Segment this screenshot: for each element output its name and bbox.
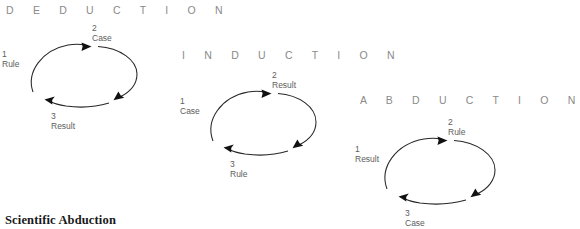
arc-segment-3 (230, 150, 288, 155)
node-text: Case (180, 107, 200, 117)
arrowhead-top (262, 89, 272, 98)
arc-segment-2 (454, 141, 495, 195)
diagram-deduction: D E D U C T I O N 1 Rule 2 Case 3 Result (0, 0, 175, 140)
cycle-arrow-diagram-abduction (355, 90, 523, 229)
cycle-arrow-diagram-deduction (0, 0, 175, 140)
arc-segment-1 (211, 91, 265, 141)
node-text: Rule (448, 128, 465, 138)
node-label-induction-3: 3 Rule (230, 160, 247, 179)
arc-segment-1 (385, 138, 441, 189)
arrowhead-top (438, 136, 448, 145)
arrowhead-top (82, 42, 92, 51)
node-text: Case (405, 219, 425, 229)
arc-segment-2 (278, 94, 316, 146)
node-text: Result (355, 155, 379, 165)
arc-segment-3 (51, 102, 109, 107)
cycle-arrow-diagram-induction (177, 45, 352, 190)
node-label-abduction-2: 2 Rule (448, 118, 465, 137)
node-label-induction-2: 2 Result (272, 71, 296, 90)
node-label-induction-1: 1 Case (180, 97, 200, 116)
node-text: Rule (230, 170, 247, 180)
arc-segment-1 (31, 44, 85, 92)
node-label-deduction-1: 1 Rule (2, 50, 19, 69)
node-text: Rule (2, 60, 19, 70)
node-text: Result (272, 81, 296, 91)
node-text: Result (51, 122, 75, 132)
diagram-induction: I N D U C T I O N 1 Case 2 Result 3 Rule (177, 45, 352, 190)
figure-caption: Scientific Abduction (5, 213, 116, 228)
arc-segment-2 (98, 47, 137, 98)
arc-segment-3 (405, 199, 466, 204)
node-label-abduction-1: 1 Result (355, 145, 379, 164)
node-label-deduction-2: 2 Case (92, 24, 112, 43)
diagram-abduction: A B D U C T I O N 1 Result 2 Rule 3 Case (355, 90, 523, 229)
node-text: Case (92, 34, 112, 44)
node-label-deduction-3: 3 Result (51, 112, 75, 131)
node-label-abduction-3: 3 Case (405, 209, 425, 228)
